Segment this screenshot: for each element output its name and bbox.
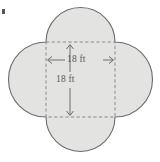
vertical-dimension-label: 18 ft [56,75,75,85]
petal-shape-group [9,8,153,152]
four-petal-shape-path [9,8,153,152]
geometry-figure: 18 ft 18 ft [0,0,160,162]
horizontal-dimension-label: 18 ft [67,55,86,65]
figure-svg [0,0,160,162]
scan-artifact-mark [2,9,5,14]
